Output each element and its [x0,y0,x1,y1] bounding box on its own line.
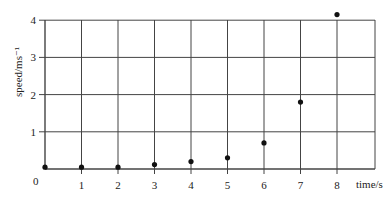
x-tick-label: 2 [115,179,121,191]
speed-time-chart: 1234 12345678 time/s speed/ms⁻¹ 0 [0,0,389,203]
y-tick-label: 3 [31,51,37,63]
data-point [152,162,157,167]
x-axis-title: time/s [356,178,383,190]
y-tick-label: 4 [31,14,37,26]
data-point [42,165,47,170]
x-tick-label: 6 [261,179,267,191]
y-axis-ticks: 1234 [31,14,37,138]
data-point [261,140,266,145]
y-tick-label: 1 [31,126,37,138]
data-point [79,165,84,170]
data-point [188,159,193,164]
grid-lines [39,20,375,169]
data-point [298,99,303,104]
origin-label: 0 [33,175,39,187]
y-axis-title: speed/ms⁻¹ [12,47,24,97]
x-axis-ticks: 12345678 [79,169,341,191]
x-tick-label: 5 [225,179,231,191]
x-tick-label: 8 [334,179,340,191]
x-tick-label: 7 [298,179,304,191]
x-tick-label: 3 [152,179,158,191]
data-point [225,155,230,160]
data-point [115,165,120,170]
x-tick-label: 1 [79,179,85,191]
y-tick-label: 2 [31,89,37,101]
x-tick-label: 4 [188,179,194,191]
data-point [334,12,339,17]
